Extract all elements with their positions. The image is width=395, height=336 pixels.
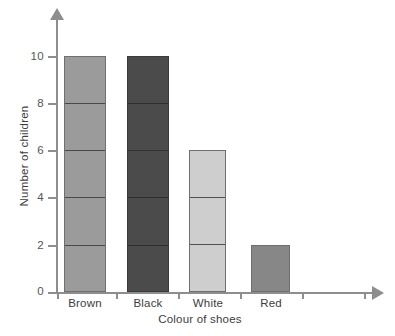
bar-white: [189, 150, 226, 292]
bar-brown: [64, 56, 106, 292]
y-tick-label-0: 0: [22, 285, 44, 297]
y-tick-label-2: 2: [22, 239, 44, 251]
y-axis-title: Number of children: [18, 86, 30, 226]
bar-brown-gridline-8: [65, 103, 105, 104]
y-tick-0: [48, 292, 56, 294]
bar-black-gridline-4: [128, 197, 168, 198]
y-tick-label-10: 10: [22, 50, 44, 62]
x-category-label-red: Red: [241, 297, 301, 309]
bar-black: [127, 56, 169, 292]
x-category-label-brown: Brown: [55, 297, 115, 309]
bar-black-gridline-8: [128, 103, 168, 104]
bar-brown-gridline-4: [65, 197, 105, 198]
bar-red: [251, 245, 290, 292]
y-axis-arrow-icon: [50, 8, 64, 20]
bar-white-gridline-4: [190, 197, 225, 198]
y-axis-line: [56, 18, 58, 294]
bar-brown-gridline-2: [65, 245, 105, 246]
y-tick-8: [48, 103, 56, 105]
bar-black-gridline-6: [128, 150, 168, 151]
x-tick-4: [302, 292, 304, 299]
y-tick-10: [48, 56, 56, 58]
x-category-label-black: Black: [118, 297, 178, 309]
x-axis-line: [56, 292, 378, 294]
y-tick-4: [48, 197, 56, 199]
y-tick-2: [48, 245, 56, 247]
bar-white-gridline-2: [190, 244, 225, 245]
bar-chart: 10 8 6 4 2 0 Brown Black White Red Colou: [0, 0, 395, 336]
bar-black-gridline-2: [128, 245, 168, 246]
x-axis-title: Colour of shoes: [0, 313, 395, 325]
bar-brown-gridline-6: [65, 150, 105, 151]
x-category-label-white: White: [178, 297, 238, 309]
x-axis-arrow-icon: [372, 286, 384, 300]
x-tick-5: [364, 292, 366, 299]
y-tick-6: [48, 150, 56, 152]
